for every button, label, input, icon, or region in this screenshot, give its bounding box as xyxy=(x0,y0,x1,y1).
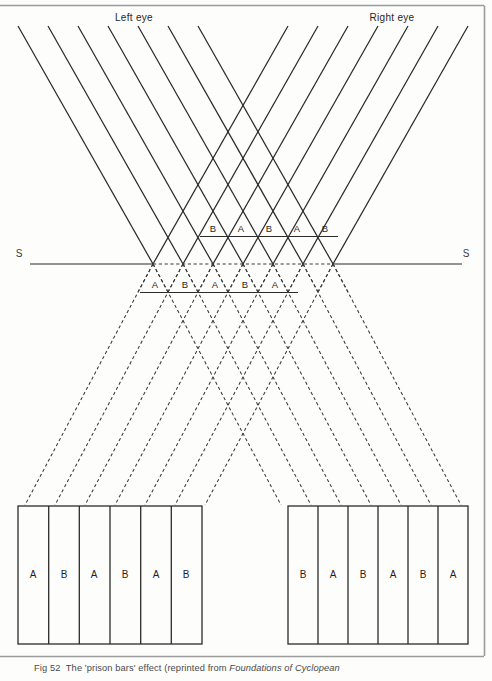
lower-left-dashed-fan xyxy=(25,264,333,505)
right-panel-label-2: B xyxy=(360,569,367,580)
upper-bar-label-1: A xyxy=(238,223,245,234)
figure-page: .solid{stroke:#2b2b2b;stroke-width:1.25;… xyxy=(0,0,492,681)
right-panel-label-3: A xyxy=(390,569,397,580)
upper-bar-label-3: A xyxy=(294,223,301,234)
lower-bar-label-1: B xyxy=(182,279,188,290)
right-bottom-panel xyxy=(288,506,468,644)
right-panel-label-1: A xyxy=(330,569,337,580)
left-panel-label-0: A xyxy=(30,569,37,580)
prison-bars-diagram: .solid{stroke:#2b2b2b;stroke-width:1.25;… xyxy=(0,0,492,681)
lower-bar-label-3: B xyxy=(242,279,248,290)
lower-right-dashed-fan xyxy=(153,264,461,505)
lower-bar-label-0: A xyxy=(152,279,159,290)
caption-italic-title: Foundations of Cyclopean xyxy=(229,663,339,673)
right-panel-label-5: A xyxy=(450,569,457,580)
lower-bar-label-4: A xyxy=(272,279,279,290)
left-panel-label-1: B xyxy=(61,569,68,580)
caption-prefix: Fig 52 xyxy=(34,663,60,673)
lower-bar-label-2: A xyxy=(212,279,219,290)
left-panel-label-5: B xyxy=(183,569,190,580)
upper-bar-label-0: B xyxy=(210,223,216,234)
upper-bar-label-4: B xyxy=(322,223,328,234)
left-bottom-panel xyxy=(18,506,202,644)
upper-bar-label-2: B xyxy=(266,223,272,234)
left-panel-label-3: B xyxy=(122,569,129,580)
left-eye-ray-bundle xyxy=(18,26,333,264)
screen-label-left: S xyxy=(16,248,23,259)
caption-text: The 'prison bars' effect (reprinted from xyxy=(66,663,230,673)
figure-caption: Fig 52 The 'prison bars' effect (reprint… xyxy=(34,662,474,674)
left-eye-label: Left eye xyxy=(115,12,153,23)
left-panel-label-4: A xyxy=(153,569,160,580)
right-eye-ray-bundle xyxy=(153,26,468,264)
right-eye-label: Right eye xyxy=(370,12,415,23)
right-panel-label-4: B xyxy=(420,569,427,580)
left-panel-label-2: A xyxy=(91,569,98,580)
right-panel-label-0: B xyxy=(300,569,307,580)
screen-label-right: S xyxy=(463,248,470,259)
